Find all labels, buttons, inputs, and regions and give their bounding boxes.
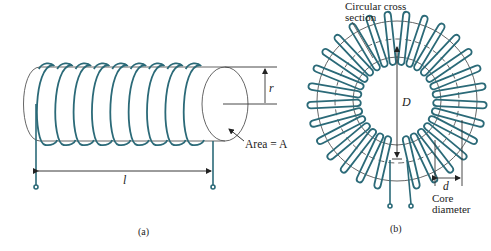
caption-b: (b)	[390, 223, 402, 235]
core-diameter-symbol: d	[443, 180, 449, 192]
caption-a: (a)	[138, 226, 149, 238]
cross-section-label-2: section	[345, 11, 377, 23]
toroid-figure: D Circular cross section d Core diameter…	[307, 0, 486, 235]
inductor-diagram: l r Area = A (a) D	[0, 0, 491, 251]
area-leader-arrow	[229, 129, 244, 141]
radius-label: r	[269, 81, 274, 95]
length-label: l	[123, 173, 127, 187]
solenoid-figure: l r Area = A (a)	[24, 63, 288, 238]
coil-turns	[37, 63, 204, 145]
solenoid-coil	[37, 63, 204, 145]
area-label: Area = A	[245, 138, 288, 150]
diameter-label: D	[401, 95, 411, 109]
core-diameter-label-2: diameter	[432, 203, 471, 215]
